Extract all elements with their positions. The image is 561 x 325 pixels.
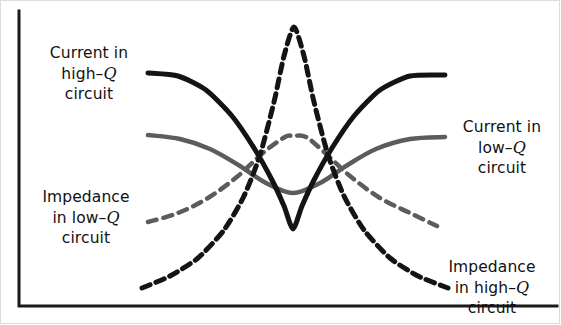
- label-line-3: circuit: [446, 159, 558, 179]
- label-line-2: high–Q: [28, 64, 150, 85]
- label-line-2-q-variable: Q: [513, 138, 526, 157]
- curve-current-in-low-q-circuit: Current in low-Q circuit: [148, 135, 445, 193]
- label-current-in-low-q-circuit: Current in low–Q circuit: [446, 118, 558, 178]
- label-line-2-text: in low: [52, 209, 98, 227]
- label-line-2: in high–Q: [428, 278, 556, 299]
- curve-impedance-in-high-q-circuit: Impedance in high-Q circuit: [142, 27, 448, 288]
- label-line-1: Current in: [28, 44, 150, 64]
- label-impedance-in-high-q-circuit: Impedance in high–Q circuit: [428, 258, 556, 318]
- label-line-3: circuit: [428, 299, 556, 319]
- label-line-3: circuit: [24, 229, 148, 249]
- label-line-2-q-variable: Q: [516, 278, 529, 297]
- label-line-2-dash: –: [508, 279, 516, 297]
- label-line-2: low–Q: [446, 138, 558, 159]
- label-line-2-text: in high: [455, 279, 509, 297]
- label-line-1: Current in: [446, 118, 558, 138]
- label-line-1: Impedance: [24, 188, 148, 208]
- label-line-2-text: low: [478, 139, 505, 157]
- curves-group: Current in low-Q circuitImpedance in low…: [142, 27, 448, 288]
- label-line-2-q-variable: Q: [106, 208, 119, 227]
- label-line-3: circuit: [28, 85, 150, 105]
- label-line-2-q-variable: Q: [103, 64, 116, 83]
- label-line-1: Impedance: [428, 258, 556, 278]
- label-line-2-dash: –: [505, 139, 513, 157]
- label-line-2: in low–Q: [24, 208, 148, 229]
- figure-container: Current in low-Q circuitImpedance in low…: [0, 0, 561, 325]
- label-impedance-in-low-q-circuit: Impedance in low–Q circuit: [24, 188, 148, 248]
- label-current-in-high-q-circuit: Current in high–Q circuit: [28, 44, 150, 104]
- curve-impedance-in-low-q-circuit: Impedance in low-Q circuit: [148, 135, 437, 226]
- label-line-2-text: high: [61, 65, 95, 83]
